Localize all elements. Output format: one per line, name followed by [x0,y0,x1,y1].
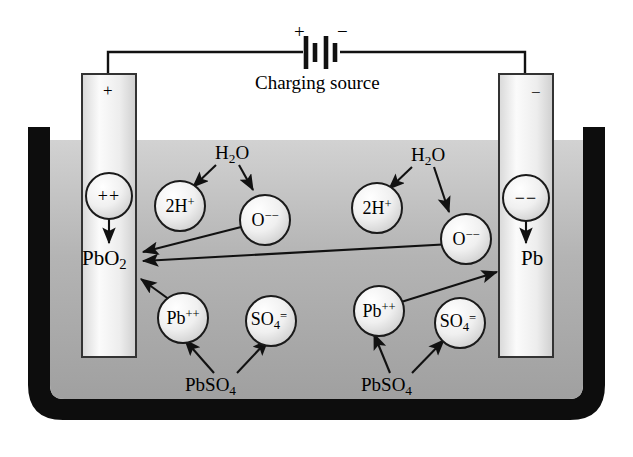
negative-electrode-sign: − [531,84,541,101]
hydrogen-ion-right-text: 2H+ [362,197,391,218]
water-label-right: H2O [411,145,445,167]
battery-symbol [306,36,335,69]
lead-sulfate-label-left: PbSO4 [185,375,236,397]
oxide-ion-left-text: O−− [251,209,278,230]
oxide-ion-right-text: O−− [452,228,479,249]
source-plus-terminal-label: + [294,22,305,41]
anode-formula-sub: 2 [119,256,126,272]
electrode-charge-text-negative: −− [515,188,537,209]
lead-ion-left-text: Pb++ [166,307,199,328]
battery-charging-diagram: + − Charging source + − PbO2 Pb H2O H2O … [0,0,633,457]
sulfate-ion-left-text: SO4= [251,309,287,333]
cathode-formula-base: Pb [521,246,543,270]
diagram-canvas [0,0,633,457]
positive-electrode-sign: + [103,82,113,99]
positive-electrode-material-label: PbO2 [82,248,127,272]
lead-ion-right-text: Pb++ [362,300,395,321]
negative-electrode-material-label: Pb [521,248,543,269]
anode-formula-base: PbO [82,246,119,270]
electrode-charge-text-positive: ++ [98,186,120,207]
water-label-left: H2O [215,143,249,165]
charging-source-caption: Charging source [255,73,380,92]
source-minus-terminal-label: − [337,22,348,41]
sulfate-ion-right-text: SO4= [440,311,476,335]
hydrogen-ion-left-text: 2H+ [165,195,194,216]
lead-sulfate-label-right: PbSO4 [361,375,412,397]
